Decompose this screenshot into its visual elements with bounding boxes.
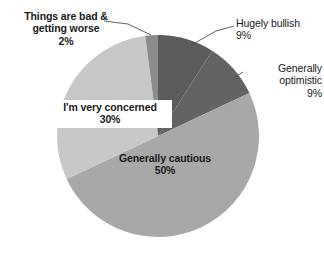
leader-line-hugely-bullish bbox=[193, 26, 234, 44]
pie-chart-page: Things are bad & getting worse 2% Hugely… bbox=[0, 0, 324, 257]
slice-label-things-are-bad: Things are bad & getting worse 2% bbox=[6, 10, 126, 47]
slice-label-im-very-concerned: I'm very concerned 30% bbox=[48, 100, 172, 128]
slice-label-generally-optimistic: Generally optimistic 9% bbox=[244, 62, 322, 99]
slice-label-hugely-bullish: Hugely bullish 9% bbox=[236, 17, 322, 42]
slice-label-generally-cautious: Generally cautious 50% bbox=[106, 152, 224, 177]
